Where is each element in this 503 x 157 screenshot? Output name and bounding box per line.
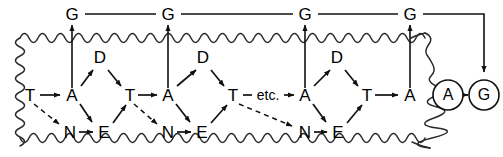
node-d-1: D <box>94 49 106 66</box>
label-etc: etc. <box>257 88 280 102</box>
node-circled-g: G <box>478 87 490 103</box>
node-t-3: T <box>362 87 372 104</box>
node-d-2: D <box>197 49 209 66</box>
node-e-1: E <box>98 124 109 141</box>
membrane-transport-arrows <box>72 25 410 88</box>
node-g-1: G <box>65 6 78 23</box>
node-a-1: A <box>66 87 77 104</box>
node-a-4: A <box>404 87 415 104</box>
node-g-2: G <box>161 6 174 23</box>
node-g-3: G <box>298 6 311 23</box>
node-n-2: N <box>162 124 174 141</box>
node-t-2: T <box>228 87 238 104</box>
node-g-4: G <box>403 6 416 23</box>
node-circled-a: A <box>443 87 454 103</box>
node-a-2: A <box>162 87 173 104</box>
node-d-3: D <box>331 49 343 66</box>
node-n-1: N <box>64 124 76 141</box>
node-e-2: E <box>196 124 207 141</box>
diagram-canvas: G G G G D D D T A T A T etc. A T A N E N… <box>0 0 503 157</box>
node-t-0: T <box>25 87 35 104</box>
node-t-1: T <box>125 87 135 104</box>
node-n-3: N <box>299 124 311 141</box>
node-e-3: E <box>332 124 343 141</box>
node-a-3: A <box>299 87 310 104</box>
